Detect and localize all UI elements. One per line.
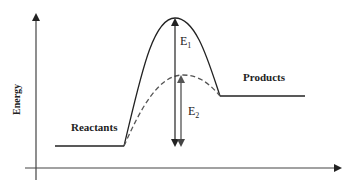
e2-arrowhead-top: [177, 75, 185, 83]
e2-label: E2: [188, 104, 199, 120]
e1-arrowhead-top: [171, 18, 179, 26]
energy-diagram: [0, 0, 352, 190]
e1-label: E1: [180, 34, 191, 50]
products-label: Products: [243, 71, 285, 83]
y-axis-label: Energy: [11, 84, 22, 115]
e2-label-sub: 2: [195, 111, 199, 120]
e2-arrowhead-bottom: [177, 139, 185, 147]
reactants-label: Reactants: [71, 121, 117, 133]
e1-label-sub: 1: [187, 41, 191, 50]
